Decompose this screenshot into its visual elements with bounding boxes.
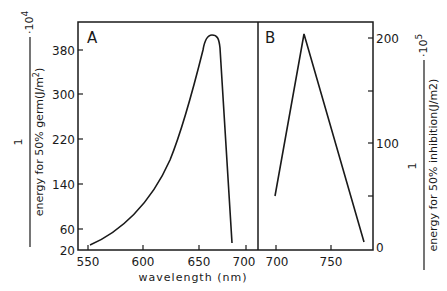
left-y-tick-label: 220 bbox=[52, 133, 75, 147]
x-tick-label: 650 bbox=[188, 255, 211, 269]
right-y-tick-label: 200 bbox=[376, 32, 399, 46]
curve-a bbox=[90, 35, 232, 245]
left-y-tick-label: 60 bbox=[60, 223, 75, 237]
curve-b bbox=[275, 34, 364, 242]
right-ylabel-numerator: 1 bbox=[406, 163, 419, 170]
x-axis-a: 550 600 650 700 bbox=[77, 245, 256, 269]
left-y-tick-label: 300 bbox=[52, 88, 75, 102]
x-tick-label: 750 bbox=[320, 255, 343, 269]
left-ylabel-scale: ·104 bbox=[20, 11, 36, 35]
left-y-axis-label: 1 energy for 50% germ(J/m2) ·104 bbox=[12, 11, 46, 248]
chart-figure: A B 380 300 220 140 60 20 200 100 0 550 … bbox=[0, 0, 447, 291]
left-ylabel-numerator: 1 bbox=[12, 139, 25, 146]
right-y-tick-label: 100 bbox=[376, 137, 399, 151]
left-y-tick-label: 380 bbox=[52, 44, 75, 58]
x-axis-label: wavelength (nm) bbox=[139, 271, 248, 284]
right-y-tick-label: 0 bbox=[376, 241, 384, 255]
x-tick-label: 550 bbox=[77, 255, 100, 269]
panel-label-b: B bbox=[265, 29, 275, 47]
panel-label-a: A bbox=[87, 29, 98, 47]
x-axis-b: 700 750 bbox=[266, 245, 343, 269]
right-y-axis-label: 1 energy for 50% inhibition(J/m2) ·105 bbox=[406, 34, 440, 270]
left-y-tick-label: 140 bbox=[52, 178, 75, 192]
left-y-tick-label: 20 bbox=[60, 244, 75, 258]
right-ylabel-scale: ·105 bbox=[414, 34, 430, 57]
x-tick-label: 700 bbox=[233, 255, 256, 269]
right-ylabel-denominator: energy for 50% inhibition(J/m2) bbox=[427, 79, 440, 252]
x-tick-label: 700 bbox=[266, 255, 289, 269]
x-tick-label: 600 bbox=[132, 255, 155, 269]
left-ylabel-denominator: energy for 50% germ(J/m2) bbox=[32, 68, 46, 217]
